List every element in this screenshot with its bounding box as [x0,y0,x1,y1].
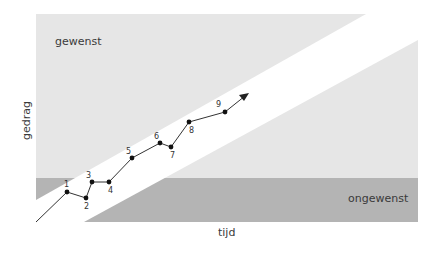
behavior-corridor-diagram: 123456789 gewenst ongewenst tijd gedrag [0,0,440,253]
data-point [223,110,228,115]
data-point [90,180,95,185]
data-point [158,141,163,146]
data-point [130,156,135,161]
data-point-label: 7 [170,151,175,160]
data-point-label: 2 [84,202,89,211]
data-point-label: 1 [64,180,69,189]
data-point [84,196,89,201]
desired-region-label: gewenst [55,35,102,48]
y-axis-label: gedrag [20,101,33,140]
data-point-label: 6 [154,132,159,141]
data-point-label: 9 [216,100,221,109]
data-point-label: 4 [108,186,113,195]
data-point [187,120,192,125]
data-point-label: 3 [86,171,91,180]
x-axis-label: tijd [218,226,235,239]
data-point [107,180,112,185]
data-point [65,190,70,195]
data-point [169,145,174,150]
data-point-label: 8 [189,126,194,135]
undesired-region-label: ongewenst [348,192,409,205]
data-point-label: 5 [126,147,131,156]
